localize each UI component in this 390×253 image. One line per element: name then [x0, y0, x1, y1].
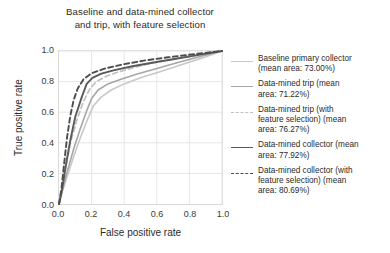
- legend-label-line: feature selection) (mean: [258, 176, 353, 186]
- legend-label-line: Data-mined collector (mean: [258, 140, 359, 150]
- legend-item[interactable]: Data-mined trip (withfeature selection) …: [231, 105, 390, 136]
- legend-item[interactable]: Data-mined collector (withfeature select…: [231, 166, 390, 197]
- y-tick-label: 0.6: [28, 107, 54, 117]
- legend-label-line: Data-mined trip (with: [258, 105, 346, 115]
- legend-item[interactable]: Data-mined collector (meanarea: 77.92%): [231, 140, 390, 160]
- legend-label-line: Baseline primary collector: [258, 54, 352, 64]
- y-tick-label: 1.0: [28, 45, 54, 55]
- legend-label: Baseline primary collector(mean area: 73…: [258, 54, 352, 74]
- legend-line-swatch-icon: [231, 81, 253, 92]
- grid-lines: [59, 51, 222, 204]
- legend-label-line: area: 77.92%): [258, 151, 359, 161]
- x-tick-label: 0.4: [109, 209, 139, 219]
- x-axis-title: False positive rate: [58, 227, 223, 238]
- x-axis-tick-labels: 0.00.20.40.60.81.0: [58, 209, 223, 223]
- legend-line-swatch-icon: [231, 56, 253, 67]
- legend-label-line: Data-mined collector (with: [258, 166, 353, 176]
- plot-canvas: [59, 51, 222, 204]
- roc-curve: [59, 51, 222, 204]
- chart-title: Baseline and data-mined collector and tr…: [40, 6, 240, 31]
- legend-item[interactable]: Data-mined trip (meanarea: 71.22%): [231, 79, 390, 99]
- x-tick-label: 0.8: [175, 209, 205, 219]
- plot-area: [58, 50, 223, 205]
- chart-legend: Baseline primary collector(mean area: 73…: [231, 54, 390, 201]
- y-tick-label: 0.4: [28, 138, 54, 148]
- legend-label: Data-mined collector (meanarea: 77.92%): [258, 140, 359, 160]
- roc-curves: [59, 51, 222, 204]
- x-tick-label: 0.6: [142, 209, 172, 219]
- legend-label-line: area: 71.22%): [258, 90, 339, 100]
- legend-label-line: area: 80.69%): [258, 186, 353, 196]
- legend-item[interactable]: Baseline primary collector(mean area: 73…: [231, 54, 390, 74]
- legend-label: Data-mined trip (withfeature selection) …: [258, 105, 346, 136]
- chart-title-line-2: and trip, with feature selection: [40, 19, 240, 32]
- y-tick-label: 0.8: [28, 76, 54, 86]
- y-tick-label: 0.2: [28, 169, 54, 179]
- legend-line-swatch-icon: [231, 142, 253, 153]
- roc-curve: [59, 51, 222, 204]
- legend-label-line: (mean area: 73.00%): [258, 64, 352, 74]
- roc-curve: [59, 51, 222, 204]
- chart-title-line-1: Baseline and data-mined collector: [40, 6, 240, 19]
- y-axis-title: True positive rate: [13, 38, 24, 198]
- x-tick-label: 0.2: [76, 209, 106, 219]
- x-tick-label: 1.0: [208, 209, 238, 219]
- y-axis-tick-labels: 0.00.20.40.60.81.0: [24, 50, 54, 205]
- x-tick-label: 0.0: [43, 209, 73, 219]
- legend-label: Data-mined collector (withfeature select…: [258, 166, 353, 197]
- roc-curve: [59, 51, 222, 204]
- legend-label-line: feature selection) (mean: [258, 115, 346, 125]
- legend-label-line: Data-mined trip (mean: [258, 79, 339, 89]
- legend-line-swatch-icon: [231, 168, 253, 179]
- legend-label-line: area: 76.27%): [258, 125, 346, 135]
- legend-label: Data-mined trip (meanarea: 71.22%): [258, 79, 339, 99]
- legend-line-swatch-icon: [231, 107, 253, 118]
- roc-curve: [59, 51, 222, 204]
- chart-figure: Baseline and data-mined collector and tr…: [0, 0, 390, 253]
